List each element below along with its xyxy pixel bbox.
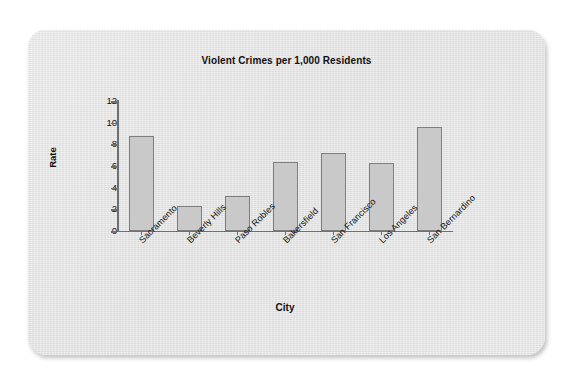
bar-sacramento (129, 136, 154, 231)
y-tick-mark (111, 209, 117, 211)
y-axis-line (117, 100, 119, 232)
bar-san-francisco (321, 153, 346, 231)
y-tick-mark (111, 231, 117, 233)
y-tick-mark (111, 144, 117, 146)
bar-bakersfield (273, 162, 298, 231)
x-axis-title: City (117, 302, 453, 313)
y-axis-title: Rate (47, 128, 58, 188)
chart-card: Violent Crimes per 1,000 Residents Rate … (28, 30, 545, 355)
y-tick-mark (111, 123, 117, 125)
plot-area: Rate 024681012 SacramentoBeverly HillsPa… (28, 30, 545, 355)
y-tick-mark (111, 188, 117, 190)
y-tick-mark (111, 166, 117, 168)
bar-los-angeles (369, 163, 394, 231)
y-tick-mark (111, 101, 117, 103)
bar-san-bernardino (417, 127, 442, 231)
